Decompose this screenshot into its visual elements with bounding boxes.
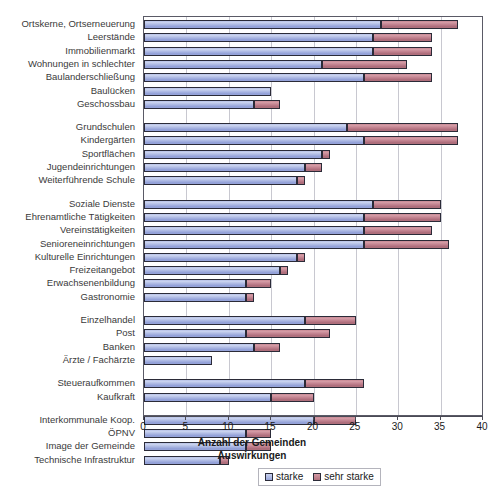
bar-row (144, 226, 483, 235)
bar-segment-starke (144, 329, 246, 338)
bar-segment-starke (144, 123, 347, 132)
bar-row (144, 163, 483, 172)
bar-row (144, 316, 483, 325)
bar-segment-starke (144, 60, 322, 69)
bar-segment-sehr-starke (305, 379, 364, 388)
bar-row (144, 47, 483, 56)
category-label: Weiterführende Schule (39, 175, 135, 185)
bar-row (144, 379, 483, 388)
legend-item-sehr-starke: sehr starke (313, 471, 373, 482)
bar-segment-sehr-starke (254, 343, 279, 352)
bar-segment-starke (144, 136, 364, 145)
bar-segment-starke (144, 356, 212, 365)
bar-segment-sehr-starke (322, 60, 407, 69)
x-tick-mark-0 (143, 416, 144, 420)
bar-segment-starke (144, 379, 305, 388)
category-label: Senioreneinrichtungen (40, 239, 135, 249)
cropped-title (0, 0, 504, 6)
category-label: Interkommunale Koop. (39, 415, 135, 425)
x-tick-mark-30 (397, 416, 398, 420)
category-label: Sportflächen (82, 149, 135, 159)
bar-segment-sehr-starke (364, 240, 449, 249)
bar-segment-sehr-starke (271, 393, 313, 402)
x-tick-mark-15 (270, 416, 271, 420)
bar-segment-sehr-starke (373, 200, 441, 209)
bar-row (144, 200, 483, 209)
category-label: Banken (103, 342, 135, 352)
legend-swatch-starke-icon (265, 473, 273, 481)
bar-segment-sehr-starke (246, 279, 271, 288)
bar-segment-starke (144, 20, 381, 29)
x-tick-label-20: 20 (307, 421, 318, 432)
bar-row (144, 73, 483, 82)
bar-row (144, 279, 483, 288)
x-tick-label-0: 0 (140, 421, 146, 432)
bar-segment-starke (144, 293, 246, 302)
legend-swatch-sehr-starke-icon (313, 473, 321, 481)
bar-row (144, 213, 483, 222)
x-tick-label-25: 25 (349, 421, 360, 432)
category-axis-labels: Ortskerne, OrtserneuerungLeerständeImmob… (0, 16, 139, 416)
bar-segment-starke (144, 226, 364, 235)
bar-segment-sehr-starke (364, 73, 432, 82)
bar-segment-starke (144, 279, 246, 288)
bar-segment-starke (144, 266, 280, 275)
x-tick-label-40: 40 (476, 421, 487, 432)
bar-segment-starke (144, 100, 254, 109)
category-label: Immobilienmarkt (65, 46, 135, 56)
bar-segment-sehr-starke (364, 213, 440, 222)
chart-legend: starke sehr starke (258, 468, 381, 486)
legend-label-sehr-starke: sehr starke (324, 471, 373, 482)
category-label: Erwachsenenbildung (47, 278, 135, 288)
bar-segment-starke (144, 343, 254, 352)
category-label: Kindergärten (81, 135, 135, 145)
x-tick-label-5: 5 (183, 421, 189, 432)
category-label: Ehrenamtliche Tätigkeiten (25, 212, 135, 222)
x-tick-label-10: 10 (222, 421, 233, 432)
x-tick-mark-20 (313, 416, 314, 420)
bar-row (144, 123, 483, 132)
category-label: Soziale Dienste (69, 199, 135, 209)
bar-segment-sehr-starke (246, 293, 254, 302)
category-label: Baulücken (91, 86, 135, 96)
category-label: Post (116, 328, 135, 338)
category-label: Ärzte / Fachärzte (63, 355, 135, 365)
bar-row (144, 343, 483, 352)
bar-segment-sehr-starke (305, 316, 356, 325)
bar-segment-sehr-starke (297, 176, 305, 185)
bar-segment-sehr-starke (322, 150, 330, 159)
x-axis-title-line2: Auswirkungen (0, 450, 504, 461)
category-label: Kulturelle Einrichtungen (35, 252, 135, 262)
bar-segment-sehr-starke (373, 47, 432, 56)
x-axis-title-line1: Anzahl der Gemeinden (0, 437, 504, 448)
category-label: Kaufkraft (97, 392, 135, 402)
bar-segment-starke (144, 213, 364, 222)
bar-segment-sehr-starke (254, 100, 279, 109)
category-label: Steueraufkommen (57, 378, 135, 388)
x-tick-label-30: 30 (392, 421, 403, 432)
legend-label-starke: starke (276, 471, 303, 482)
bar-segment-starke (144, 240, 364, 249)
bar-segment-sehr-starke (305, 163, 322, 172)
bar-segment-sehr-starke (246, 329, 331, 338)
x-tick-mark-40 (482, 416, 483, 420)
category-label: Grundschulen (76, 122, 135, 132)
bar-segment-sehr-starke (280, 266, 288, 275)
category-label: Wohnungen in schlechter (28, 59, 135, 69)
category-label: Vereinstätigkeiten (60, 225, 135, 235)
x-tick-mark-25 (355, 416, 356, 420)
bar-row (144, 176, 483, 185)
bar-segment-starke (144, 47, 373, 56)
bar-segment-starke (144, 200, 373, 209)
bar-row (144, 150, 483, 159)
category-label: Gastronomie (81, 292, 135, 302)
legend-item-starke: starke (265, 471, 303, 482)
bar-row (144, 329, 483, 338)
bar-segment-starke (144, 316, 305, 325)
bar-segment-starke (144, 176, 297, 185)
bar-segment-sehr-starke (297, 253, 305, 262)
x-tick-mark-10 (228, 416, 229, 420)
bar-segment-starke (144, 163, 305, 172)
category-label: Freizeitangebot (70, 265, 135, 275)
bar-row (144, 240, 483, 249)
